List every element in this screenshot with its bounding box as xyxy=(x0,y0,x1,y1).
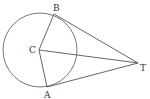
tangent-bt xyxy=(54,14,138,63)
radius-ca xyxy=(39,50,47,87)
tangent-diagram: B C A T xyxy=(0,0,150,99)
label-a: A xyxy=(43,90,51,99)
radius-cb xyxy=(39,14,54,50)
label-c: C xyxy=(29,45,36,55)
tangent-at xyxy=(47,63,138,87)
label-t: T xyxy=(140,63,146,73)
label-b: B xyxy=(53,3,60,13)
segment-ct xyxy=(39,50,138,63)
